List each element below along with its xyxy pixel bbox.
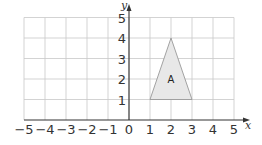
y-tick-label: 3 xyxy=(118,52,126,67)
x-tick-label: 0 xyxy=(125,122,133,137)
y-tick-label: 2 xyxy=(118,72,126,87)
x-tick-label: 1 xyxy=(146,122,154,137)
axes xyxy=(24,4,250,123)
x-tick-label: 4 xyxy=(209,122,217,137)
x-tick-label: −4 xyxy=(35,122,54,137)
y-axis-arrow-icon xyxy=(127,4,132,11)
tick-labels: −5−4−3−2−101234512345 xyxy=(14,11,238,138)
x-tick-label: 5 xyxy=(230,122,238,137)
x-tick-label: 2 xyxy=(167,122,175,137)
y-tick-label: 1 xyxy=(118,93,126,108)
y-tick-label: 5 xyxy=(118,11,126,26)
triangle-A xyxy=(150,38,192,100)
coordinate-grid-chart: A −5−4−3−2−101234512345 x y xyxy=(0,0,262,145)
y-axis-label: y xyxy=(120,0,128,12)
x-tick-label: −1 xyxy=(98,122,117,137)
x-tick-label: −3 xyxy=(56,122,75,137)
x-axis-label: x xyxy=(245,119,252,132)
shape-label: A xyxy=(168,74,175,85)
shapes: A xyxy=(150,38,192,100)
y-tick-label: 4 xyxy=(118,31,126,46)
x-tick-label: −2 xyxy=(77,122,96,137)
x-tick-label: −5 xyxy=(14,122,33,137)
x-tick-label: 3 xyxy=(188,122,196,137)
